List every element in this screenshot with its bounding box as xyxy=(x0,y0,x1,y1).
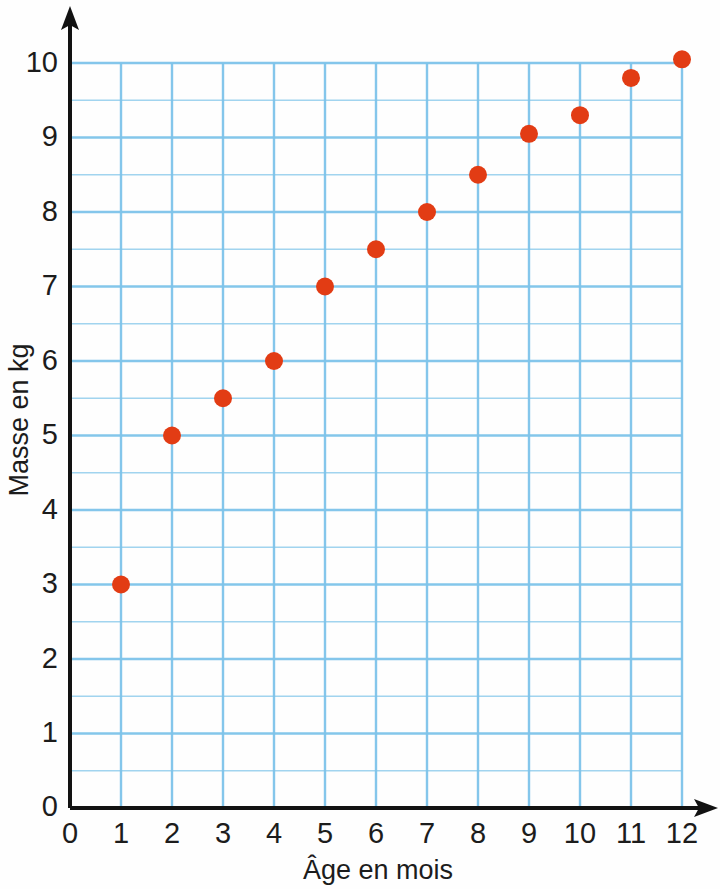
x-tick-label: 10 xyxy=(564,817,596,849)
data-point xyxy=(265,352,283,370)
chart-figure: 12345678910 0123456789101112 0 Âge en mo… xyxy=(0,0,720,889)
x-tick-label: 7 xyxy=(419,817,435,849)
y-tick-label: 1 xyxy=(42,716,58,748)
x-tick-label: 8 xyxy=(470,817,486,849)
x-tick-label: 1 xyxy=(113,817,129,849)
data-point xyxy=(571,106,589,124)
data-point xyxy=(673,50,691,68)
y-tick-label: 6 xyxy=(42,344,58,376)
y-tick-label: 9 xyxy=(42,120,58,152)
y-tick-label: 8 xyxy=(42,195,58,227)
data-point xyxy=(469,166,487,184)
data-point xyxy=(520,125,538,143)
y-axis-title: Masse en kg xyxy=(4,343,34,496)
data-point xyxy=(163,427,181,445)
data-point xyxy=(367,240,385,258)
data-point xyxy=(214,389,232,407)
x-tick-label: 12 xyxy=(666,817,698,849)
y-tick-label: 10 xyxy=(26,46,58,78)
scatter-plot: 12345678910 0123456789101112 0 Âge en mo… xyxy=(0,0,720,889)
x-tick-label: 11 xyxy=(616,817,646,849)
x-tick-label: 2 xyxy=(164,817,180,849)
chart-background xyxy=(0,0,720,889)
x-axis-title: Âge en mois xyxy=(303,854,453,885)
x-tick-label: 6 xyxy=(368,817,384,849)
data-point xyxy=(418,203,436,221)
x-tick-label: 9 xyxy=(521,817,537,849)
data-point xyxy=(316,278,334,296)
x-tick-label: 4 xyxy=(266,817,282,849)
y-tick-label: 4 xyxy=(42,493,58,525)
x-tick-label: 3 xyxy=(215,817,231,849)
origin-label: 0 xyxy=(42,790,58,822)
data-point xyxy=(112,576,130,594)
y-tick-label: 5 xyxy=(42,418,58,450)
x-tick-label: 5 xyxy=(317,817,333,849)
y-tick-label: 3 xyxy=(42,567,58,599)
x-tick-label: 0 xyxy=(62,817,78,849)
data-point xyxy=(622,69,640,87)
y-tick-label: 2 xyxy=(42,642,58,674)
y-tick-label: 7 xyxy=(42,269,58,301)
